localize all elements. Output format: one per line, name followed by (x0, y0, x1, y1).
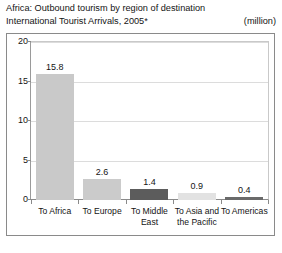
xlabel-to-africa-line1: To Africa (31, 206, 78, 217)
bar-slot-to-asia-and-the-pacific: 0.9 (173, 41, 220, 200)
ytick-label-15: 15 (4, 77, 28, 86)
xtick-mark-1 (78, 200, 79, 204)
bar-slot-to-africa: 15.8 (31, 41, 78, 200)
bar-value-to-asia-and-the-pacific: 0.9 (191, 182, 204, 191)
xlabel-to-asia-and-the-pacific-line2: the Pacific (173, 217, 220, 228)
bar-slot-to-americas: 0.4 (221, 41, 268, 200)
bar-to-asia-and-the-pacific[interactable] (178, 193, 216, 200)
xlabel-to-americas: To Americas (221, 206, 268, 217)
chart-unit-label: (million) (6, 15, 276, 28)
xlabel-to-asia-and-the-pacific: To Asia and the Pacific (173, 206, 220, 227)
ytick-label-20: 20 (4, 37, 28, 46)
chart-figure: Africa: Outbound tourism by region of de… (0, 0, 282, 253)
bar-value-to-americas: 0.4 (238, 186, 251, 195)
xtick-mark-3 (173, 200, 174, 204)
page-title: Africa: Outbound tourism by region of de… (6, 2, 276, 15)
bar-to-americas[interactable] (225, 197, 263, 200)
bar-to-europe[interactable] (83, 179, 121, 200)
xtick-mark-0 (31, 200, 32, 204)
bar-value-to-europe: 2.6 (96, 168, 109, 177)
xlabel-to-europe: To Europe (78, 206, 125, 217)
xlabel-to-africa: To Africa (31, 206, 78, 217)
xlabel-to-middle-east: To Middle East (124, 206, 175, 227)
bar-slot-to-europe: 2.6 (78, 41, 125, 200)
xaxis-labels: To Africa To Europe To Middle East To As… (31, 206, 268, 234)
bar-value-to-africa: 15.8 (46, 63, 64, 72)
xlabel-to-europe-line1: To Europe (78, 206, 125, 217)
ytick-label-0: 0 (4, 195, 28, 204)
ytick-label-5: 5 (4, 156, 28, 165)
xlabel-to-americas-line1: To Americas (221, 206, 268, 217)
xtick-mark-4 (221, 200, 222, 204)
bars-layer: 15.8 2.6 1.4 0.9 0.4 (31, 41, 268, 200)
xtick-mark-5 (268, 200, 269, 204)
ytick-label-10: 10 (4, 116, 28, 125)
xlabel-to-asia-and-the-pacific-line1: To Asia and (173, 206, 220, 217)
xlabel-to-middle-east-line1: To Middle East (124, 206, 175, 227)
bar-to-middle-east[interactable] (130, 189, 168, 200)
bar-value-to-middle-east: 1.4 (143, 178, 156, 187)
bar-slot-to-middle-east: 1.4 (126, 41, 173, 200)
xtick-mark-2 (126, 200, 127, 204)
bar-to-africa[interactable] (36, 74, 74, 200)
